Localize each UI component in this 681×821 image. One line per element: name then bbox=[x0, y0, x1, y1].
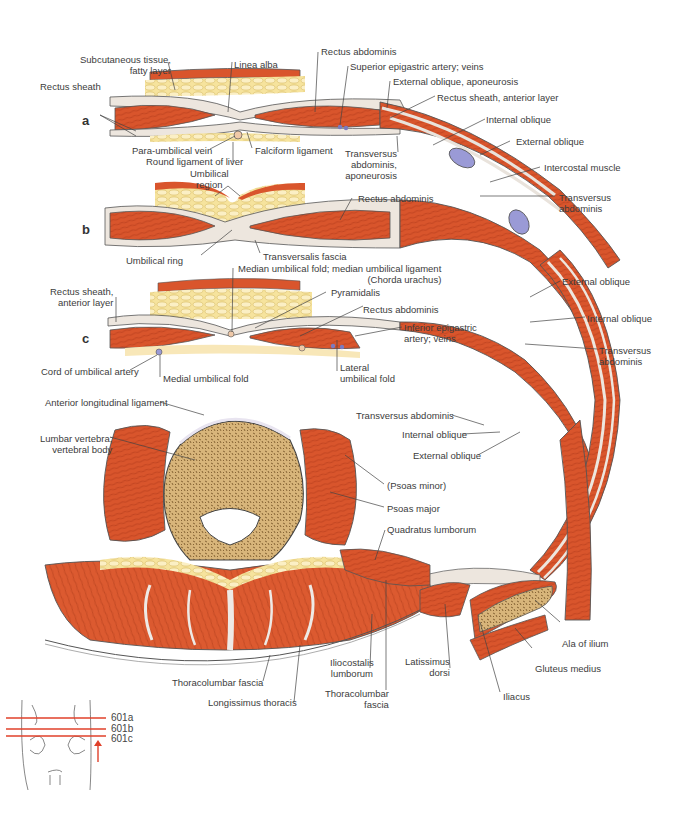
label-ala-of-ilium: Ala of ilium bbox=[562, 638, 608, 649]
label-thoracolumbar-fascia-right: Thoracolumbar fascia bbox=[325, 688, 389, 710]
label-inferior-epigastric: Inferior epigastric artery; veins bbox=[404, 322, 477, 344]
label-external-oblique-a: External oblique bbox=[516, 136, 584, 147]
level-label-601c: 601c bbox=[111, 733, 133, 744]
label-external-oblique-c: External oblique bbox=[562, 276, 630, 287]
section-label-a: a bbox=[82, 113, 89, 128]
level-label-601a: 601a bbox=[111, 712, 133, 723]
label-latissimus-dorsi: Latissimus dorsi bbox=[405, 656, 450, 678]
label-linea-alba: Linea alba bbox=[234, 59, 278, 70]
label-external-oblique-aponeurosis: External oblique, aponeurosis bbox=[393, 76, 518, 87]
label-para-umbilical-vein: Para-umbilical vein bbox=[132, 145, 212, 156]
label-internal-oblique-a: Internal oblique bbox=[486, 114, 551, 125]
label-falciform-ligament: Falciform ligament bbox=[255, 145, 333, 156]
label-median-umbilical-fold: Median umbilical fold; median umbilical … bbox=[238, 263, 441, 285]
anatomy-figure: a b c Subcutaneous tissue, fatty layer L… bbox=[0, 0, 681, 821]
label-rectus-sheath: Rectus sheath bbox=[40, 81, 101, 92]
label-cord-umbilical-artery: Cord of umbilical artery bbox=[41, 366, 139, 377]
label-superior-epigastric: Superior epigastric artery; veins bbox=[350, 61, 484, 72]
section-label-c: c bbox=[82, 331, 89, 346]
label-psoas-major: Psoas major bbox=[387, 503, 440, 514]
orientation-inset bbox=[22, 700, 91, 790]
section-label-b: b bbox=[82, 222, 90, 237]
label-iliacus: Iliacus bbox=[503, 691, 530, 702]
label-internal-oblique-lumbar: Internal oblique bbox=[402, 429, 467, 440]
label-lumbar-vertebra: Lumbar vertebra; vertebral body bbox=[40, 433, 112, 455]
label-iliocostalis-lumborum: Iliocostalis lumborum bbox=[330, 657, 374, 679]
label-rectus-sheath-anterior-c: Rectus sheath, anterior layer bbox=[50, 286, 113, 308]
label-transversus-c: Transversus abdominis bbox=[599, 345, 651, 367]
label-rectus-sheath-anterior-a: Rectus sheath, anterior layer bbox=[437, 92, 558, 103]
label-transversus-a: Transversus abdominis bbox=[559, 192, 611, 214]
label-transversalis-fascia: Transversalis fascia bbox=[263, 251, 347, 262]
label-transversus-lumbar: Transversus abdominis bbox=[356, 410, 454, 421]
label-rectus-abdominis-c: Rectus abdominis bbox=[363, 304, 439, 315]
label-anterior-longitudinal-ligament: Anterior longitudinal ligament bbox=[45, 397, 168, 408]
label-umbilical-ring: Umbilical ring bbox=[126, 255, 183, 266]
label-transversus-aponeurosis: Transversus abdominis, aponeurosis bbox=[345, 148, 397, 181]
label-medial-umbilical-fold: Medial umbilical fold bbox=[163, 373, 249, 384]
label-round-ligament: Round ligament of liver bbox=[146, 156, 243, 167]
label-thoracolumbar-fascia-left: Thoracolumbar fascia bbox=[172, 677, 263, 688]
label-quadratus-lumborum: Quadratus lumborum bbox=[387, 524, 476, 535]
label-rectus-abdominis-b: Rectus abdominis bbox=[358, 193, 434, 204]
label-rectus-abdominis-a: Rectus abdominis bbox=[321, 46, 397, 57]
label-intercostal-muscle: Intercostal muscle bbox=[544, 162, 621, 173]
label-subcutaneous-tissue: Subcutaneous tissue, fatty layer bbox=[80, 54, 171, 76]
label-umbilical-region: Umbilical region bbox=[190, 168, 229, 190]
label-psoas-minor: (Psoas minor) bbox=[387, 480, 446, 491]
label-internal-oblique-c: Internal oblique bbox=[587, 313, 652, 324]
label-longissimus-thoracis: Longissimus thoracis bbox=[208, 697, 297, 708]
label-external-oblique-lumbar: External oblique bbox=[413, 450, 481, 461]
arrow-up-icon bbox=[94, 740, 102, 746]
label-lateral-umbilical-fold: Lateral umbilical fold bbox=[340, 362, 395, 384]
label-gluteus-medius: Gluteus medius bbox=[535, 663, 601, 674]
label-pyramidalis: Pyramidalis bbox=[331, 287, 380, 298]
